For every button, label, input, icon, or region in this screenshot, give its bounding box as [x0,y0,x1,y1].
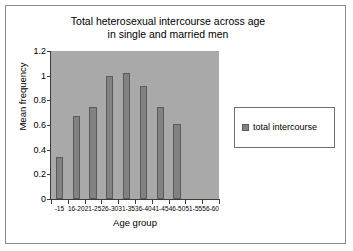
x-axis-tick-mark [68,200,69,204]
legend-entry-label: total intercourse [253,122,317,132]
x-axis-tick-mark [152,200,153,204]
x-axis-tick-mark [118,200,119,204]
bar [123,73,130,199]
bar [157,107,164,200]
y-axis-tick-mark [47,150,51,151]
y-axis-tick-label: 0 [20,194,46,204]
bar [89,107,96,200]
x-axis-tick-label: 36-40 [135,205,152,212]
chart-figure: Total heterosexual intercourse across ag… [5,5,346,244]
x-axis-tick-label: 21-25 [85,205,102,212]
y-axis-tick-mark [47,76,51,77]
x-axis-tick-mark [135,200,136,204]
x-axis-tick-label: 51-55 [185,205,202,212]
y-axis-tick-label: 0.4 [20,145,46,155]
x-axis-tick-mark [169,200,170,204]
x-axis-tick-label: 56-60 [202,205,219,212]
bar [73,116,80,199]
bar [173,124,180,199]
x-axis-tick-label: 26-30 [101,205,118,212]
y-axis-tick-label: 0.2 [20,169,46,179]
chart-legend: total intercourse [234,107,335,148]
x-axis-tick-mark [202,200,203,204]
legend-entry: total intercourse [242,122,317,132]
plot-area [51,51,219,199]
x-axis-tick-mark [219,200,220,204]
bar [106,76,113,199]
y-axis-title: Mean frequency [17,52,28,142]
x-axis-tick-label: 46-50 [169,205,186,212]
y-axis-tick-mark [47,51,51,52]
y-axis-tick-mark [47,125,51,126]
bar [140,86,147,199]
x-axis-tick-label: 16-20 [68,205,85,212]
y-axis-tick-mark [47,100,51,101]
bar [56,157,63,199]
legend-color-swatch [242,124,249,131]
x-axis-tick-label: 41-45 [152,205,169,212]
x-axis-tick-mark [185,200,186,204]
x-axis-tick-mark [51,200,52,204]
y-axis-tick-mark [47,174,51,175]
x-axis-tick-label: -15 [55,205,64,212]
x-axis-title: Age group [51,217,219,228]
x-axis-tick-label: 31-35 [118,205,135,212]
x-axis-tick-mark [85,200,86,204]
chart-title: Total heterosexual intercourse across ag… [28,15,308,41]
x-axis-tick-mark [101,200,102,204]
